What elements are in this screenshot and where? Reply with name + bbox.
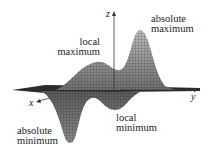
local-maximum-label: local maximum [52,37,100,57]
local-minimum-label: local minimum [116,113,157,133]
absolute-maximum-label: absolute maximum [151,14,194,34]
y-axis-label: y [191,91,195,102]
absolute-minimum-label: absolute minimum [17,126,58,146]
x-axis-label: x [29,97,33,108]
x-axis [39,98,50,101]
x-axis-arrow-icon [36,99,41,103]
z-axis-label: z [106,8,110,19]
z-axis-arrow-icon [112,11,116,16]
